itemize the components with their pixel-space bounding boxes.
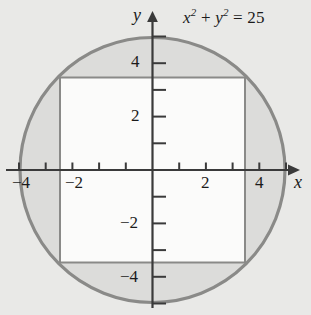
x-axis-label: x	[294, 172, 302, 193]
y-axis-label: y	[133, 5, 141, 26]
equation-y: y	[215, 8, 223, 27]
equation-x: x	[183, 8, 191, 27]
circle-equation-label: x2 + y2 = 25	[183, 6, 265, 28]
x-tick-label-2: 2	[201, 173, 210, 193]
equation-equals: =	[229, 8, 248, 27]
y-tick-label-minus2: −2	[120, 213, 138, 233]
y-tick-label-4: 4	[131, 52, 140, 72]
y-tick-label-2: 2	[131, 106, 140, 126]
x-tick-label-4: 4	[255, 173, 264, 193]
x-tick-label-minus4: −4	[12, 173, 30, 193]
y-tick-label-minus4: −4	[120, 267, 138, 287]
circle-and-inscribed-square-figure	[0, 0, 311, 315]
x-tick-label-minus2: −2	[65, 173, 83, 193]
equation-plus: +	[196, 8, 215, 27]
equation-rhs: 25	[247, 8, 264, 27]
